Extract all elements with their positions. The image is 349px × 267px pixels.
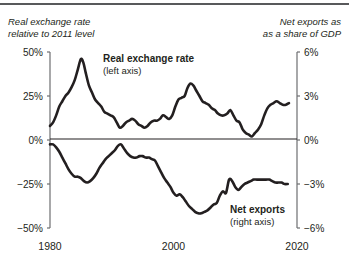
x-tick-2000: 2000 xyxy=(162,240,186,252)
figure-container: Real exchange rate relative to 2011 leve… xyxy=(0,0,349,267)
x-tick-1980: 1980 xyxy=(38,240,62,252)
x-axis-tick-labels: 198020002020 xyxy=(38,240,309,252)
data-series-group xyxy=(50,59,289,214)
axis-lines xyxy=(47,52,300,228)
x-tick-2020: 2020 xyxy=(285,240,309,252)
right-tick-0: 6% xyxy=(304,47,319,58)
series-sublabel-right-axis: (right axis) xyxy=(230,216,274,227)
left-tick-2: 0% xyxy=(29,135,44,146)
right-tick-1: 3% xyxy=(304,91,319,102)
right-axis-tick-labels: 6%3%0%−3%−6% xyxy=(304,47,324,234)
left-axis-tick-labels: 50%25%0%−25%−50% xyxy=(17,47,43,234)
series-label-net-exports: Net exports xyxy=(230,204,285,215)
chart-svg: 50%25%0%−25%−50% 6%3%0%−3%−6% 1980200020… xyxy=(0,0,349,267)
right-tick-3: −3% xyxy=(304,179,324,190)
right-tick-4: −6% xyxy=(304,223,324,234)
series-path-real-exchange-rate xyxy=(50,59,289,137)
series-label-real-exchange-rate: Real exchange rate xyxy=(103,53,195,64)
right-tick-2: 0% xyxy=(304,135,319,146)
left-tick-3: −25% xyxy=(17,179,43,190)
left-tick-1: 25% xyxy=(23,91,43,102)
series-sublabel-left-axis: (left axis) xyxy=(103,65,142,76)
left-tick-4: −50% xyxy=(17,223,43,234)
left-tick-0: 50% xyxy=(23,47,43,58)
